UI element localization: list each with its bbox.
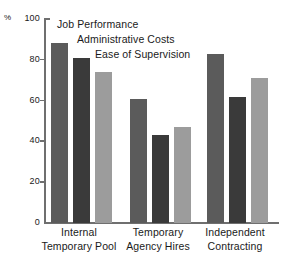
bar (51, 43, 68, 223)
y-tick-label: 100 (14, 13, 40, 23)
y-tick-mark (40, 59, 45, 61)
bar (130, 99, 147, 223)
y-tick-label: 60 (14, 95, 40, 105)
x-category-label-line: Independent (185, 226, 283, 240)
y-tick-mark (40, 181, 45, 183)
y-tick-label: 80 (14, 54, 40, 64)
bar (73, 58, 90, 223)
y-tick-label: 40 (14, 135, 40, 145)
bar-group (51, 18, 112, 223)
bar (95, 72, 112, 223)
plot-area (45, 18, 279, 223)
bar (207, 54, 224, 223)
y-axis-unit-label: % (4, 13, 11, 22)
y-tick-mark (40, 140, 45, 142)
bar (174, 127, 191, 223)
y-tick-mark (40, 100, 45, 102)
bar (229, 97, 246, 223)
bar (152, 135, 169, 223)
bar-group (207, 18, 268, 223)
y-tick-label: 20 (14, 176, 40, 186)
bar (251, 78, 268, 223)
bar-group (130, 18, 191, 223)
x-category-label: IndependentContracting (185, 226, 283, 253)
bar-chart: % 020406080100 Job PerformanceAdministra… (0, 0, 283, 269)
x-category-label-line: Contracting (185, 240, 283, 254)
